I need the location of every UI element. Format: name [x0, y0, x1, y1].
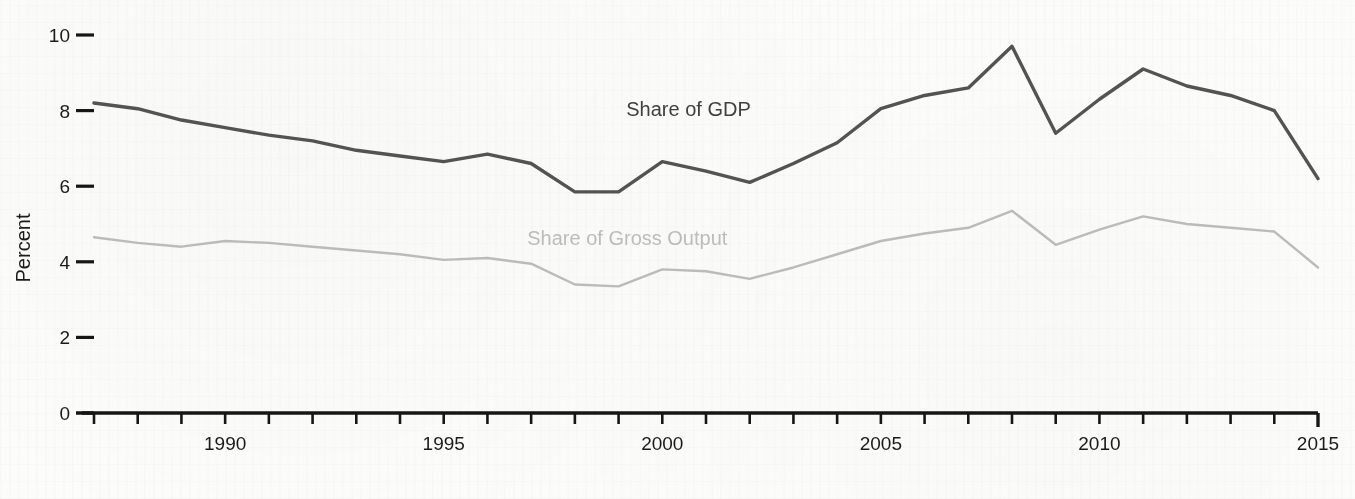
- y-axis-tick-label: 8: [59, 101, 70, 122]
- line-chart-plot: 0246810 199019952000200520102015 Share o…: [0, 0, 1355, 499]
- x-axis-tick-label: 1995: [423, 433, 465, 454]
- x-axis-tick-label: 1990: [204, 433, 246, 454]
- y-axis-tick-label: 2: [59, 327, 70, 348]
- y-axis-tick-label: 0: [59, 403, 70, 424]
- y-axis-title: Percent: [12, 213, 34, 282]
- x-axis-tick-label: 2010: [1078, 433, 1120, 454]
- x-axis-tick-label: 2015: [1297, 433, 1339, 454]
- annotation-share-of-gross-output: Share of Gross Output: [527, 227, 728, 249]
- y-axis: 0246810: [49, 25, 94, 424]
- y-axis-tick-label: 6: [59, 176, 70, 197]
- y-axis-tick-label: 4: [59, 252, 70, 273]
- x-axis-tick-label: 2000: [641, 433, 683, 454]
- chart-figure: 0246810 199019952000200520102015 Share o…: [0, 0, 1355, 499]
- x-axis-tick-label: 2005: [860, 433, 902, 454]
- annotation-share-of-gdp: Share of GDP: [626, 98, 751, 120]
- x-axis: 199019952000200520102015: [82, 413, 1339, 454]
- y-axis-tick-label: 10: [49, 25, 70, 46]
- series-lines: [94, 46, 1318, 286]
